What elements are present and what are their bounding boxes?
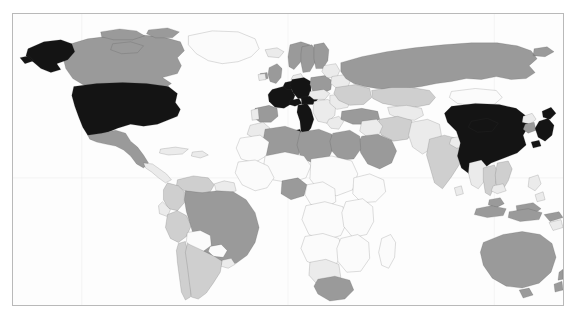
figure-canvas <box>0 0 578 322</box>
world-map <box>13 14 563 305</box>
country-ireland <box>258 74 266 81</box>
country-portugal <box>251 108 259 120</box>
world-map-frame <box>12 13 564 306</box>
